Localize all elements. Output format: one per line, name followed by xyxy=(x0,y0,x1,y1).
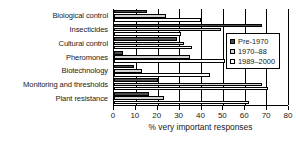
category-label: Biological control xyxy=(52,12,108,20)
x-axis-tick-labels: 01020304050607080 xyxy=(113,110,288,121)
bar xyxy=(114,87,268,91)
legend-swatch-icon xyxy=(230,59,235,64)
bar xyxy=(114,78,158,82)
x-axis-tick-label: 70 xyxy=(262,110,271,121)
legend-swatch-icon xyxy=(230,39,235,44)
bar-group xyxy=(114,9,288,23)
legend-swatch-icon xyxy=(230,49,235,54)
bar xyxy=(114,18,201,22)
category-label: Cultural control xyxy=(59,40,108,48)
legend-label: 1970–88 xyxy=(238,47,267,56)
legend-item[interactable]: 1970–88 xyxy=(230,46,275,56)
bar xyxy=(114,28,221,32)
category-label-cell: Pheromones xyxy=(0,51,111,65)
category-label-cell: Biological control xyxy=(0,9,111,23)
bar xyxy=(114,51,123,55)
bar xyxy=(114,73,210,77)
legend-label: 1989–2000 xyxy=(238,57,275,66)
bar xyxy=(114,96,164,100)
x-axis-title: % very important responses xyxy=(113,122,288,133)
x-axis-tick-label: 40 xyxy=(196,110,205,121)
bar xyxy=(114,32,181,36)
x-axis-tick-label: 60 xyxy=(240,110,249,121)
bar xyxy=(114,101,249,105)
bar xyxy=(114,92,149,96)
category-label: Insecticides xyxy=(70,26,108,34)
x-axis-tick-label: 30 xyxy=(174,110,183,121)
bar-group xyxy=(114,78,288,92)
bar xyxy=(114,65,134,69)
bar xyxy=(114,24,262,28)
bar-group xyxy=(114,91,288,105)
x-axis-tick-label: 20 xyxy=(152,110,161,121)
category-label-cell: Insecticides xyxy=(0,23,111,37)
bar xyxy=(114,14,166,18)
bar xyxy=(114,10,147,14)
category-label: Biotechnology xyxy=(62,67,108,75)
category-label-cell: Cultural control xyxy=(0,37,111,51)
bar xyxy=(114,46,192,50)
category-label-cell: Monitoring and thresholds xyxy=(0,78,111,92)
category-label: Plant resistance xyxy=(56,95,108,103)
bar xyxy=(114,55,190,59)
bar xyxy=(114,37,177,41)
legend-label: Pre-1970 xyxy=(238,37,268,46)
category-label-cell: Plant resistance xyxy=(0,92,111,106)
category-axis-labels: Biological controlInsecticidesCultural c… xyxy=(0,9,111,106)
bar xyxy=(114,83,262,87)
legend-item[interactable]: Pre-1970 xyxy=(230,36,275,46)
x-axis-tick-label: 10 xyxy=(130,110,139,121)
x-axis-tick-label: 50 xyxy=(218,110,227,121)
category-label: Monitoring and thresholds xyxy=(23,81,108,89)
x-axis-tick-label: 80 xyxy=(284,110,293,121)
bar xyxy=(114,69,142,73)
gridline xyxy=(288,9,289,105)
legend: Pre-19701970–881989–2000 xyxy=(226,33,280,69)
x-axis-tick-label: 0 xyxy=(111,110,115,121)
category-label-cell: Biotechnology xyxy=(0,64,111,78)
legend-item[interactable]: 1989–2000 xyxy=(230,56,275,66)
bar-chart: Biological controlInsecticidesCultural c… xyxy=(0,0,296,147)
bar xyxy=(114,42,184,46)
bar xyxy=(114,59,225,63)
category-label: Pheromones xyxy=(66,54,108,62)
